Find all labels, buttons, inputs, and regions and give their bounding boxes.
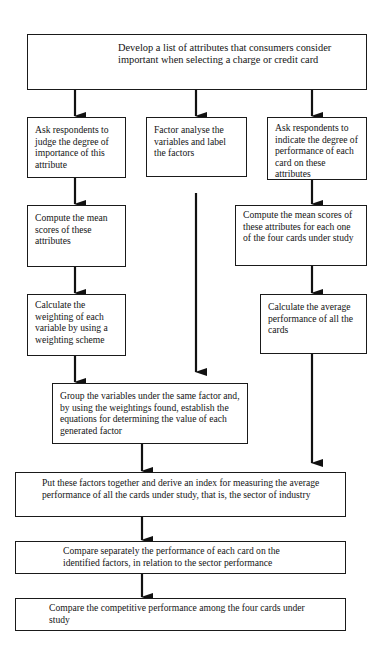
node-ask-importance: Ask respondents to judge the degree of i… xyxy=(27,117,126,178)
node-compare-competitive: Compare the competitive performance amon… xyxy=(15,598,346,631)
node-develop-attributes: Develop a list of attributes that consum… xyxy=(27,34,367,90)
node-compare-separately: Compare separately the performance of ea… xyxy=(15,541,346,574)
node-factor-analyse: Factor analyse the variables and label t… xyxy=(146,117,247,177)
node-calculate-weighting: Calculate the weighting of each variable… xyxy=(27,294,126,356)
node-group-variables: Group the variables under the same facto… xyxy=(52,383,248,444)
node-compute-mean-scores: Compute the mean scores of these attribu… xyxy=(27,205,126,267)
node-ask-performance: Ask respondents to indicate the degree o… xyxy=(267,117,367,180)
node-calculate-average: Calculate the average performance of all… xyxy=(260,294,367,354)
node-compute-card-scores: Compute the mean scores of these attribu… xyxy=(235,205,367,266)
node-derive-index: Put these factors together and derive an… xyxy=(15,472,346,517)
